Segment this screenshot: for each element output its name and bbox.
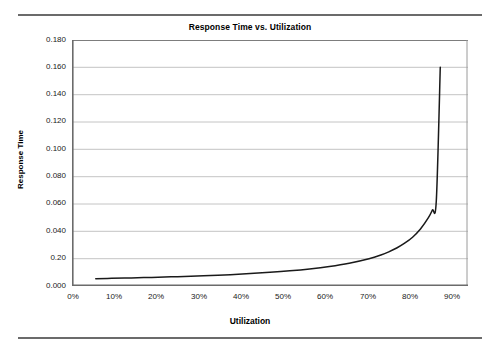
x-axis-tick-labels: 0% 10% 20% 30% 40% 50% 60% 70% 80% 90% <box>72 292 472 306</box>
x-tick-label-90: 90% <box>432 292 472 301</box>
y-axis-tick-labels: 0.180 0.160 0.140 0.120 0.100 0.080 0.06… <box>18 40 66 286</box>
y-tick-label-0140: 0.140 <box>20 89 66 98</box>
top-divider-rule <box>18 14 482 16</box>
y-tick-label-0180: 0.180 <box>20 35 66 44</box>
y-tick-label-0100: 0.100 <box>20 144 66 153</box>
x-tick-label-60: 60% <box>305 292 345 301</box>
y-tick-label-0060: 0.060 <box>20 198 66 207</box>
x-tick-label-30: 30% <box>179 292 219 301</box>
x-axis-title: Utilization <box>0 316 500 326</box>
bottom-divider-rule <box>18 337 482 339</box>
x-tick-label-0: 0% <box>53 292 93 301</box>
response-time-curve <box>96 67 441 278</box>
gridlines <box>72 41 468 259</box>
plot-area <box>72 40 468 286</box>
plot-svg <box>72 40 468 286</box>
x-tick-label-80: 80% <box>390 292 430 301</box>
x-tick-label-40: 40% <box>221 292 261 301</box>
y-tick-label-0080: 0.080 <box>20 171 66 180</box>
y-tick-label-0160: 0.160 <box>20 62 66 71</box>
chart-figure: Response Time vs. Utilization Response T… <box>0 0 500 354</box>
axis-spines <box>72 40 468 286</box>
x-tick-label-50: 50% <box>263 292 303 301</box>
y-tick-label-0000: 0.000 <box>20 281 66 290</box>
x-tick-label-70: 70% <box>348 292 388 301</box>
x-tick-label-20: 20% <box>136 292 176 301</box>
y-tick-label-0040: 0.040 <box>20 226 66 235</box>
y-tick-label-0120: 0.120 <box>20 116 66 125</box>
chart-title: Response Time vs. Utilization <box>0 22 500 32</box>
x-tick-label-10: 10% <box>94 292 134 301</box>
y-tick-label-0020: 0.20 <box>20 253 66 262</box>
